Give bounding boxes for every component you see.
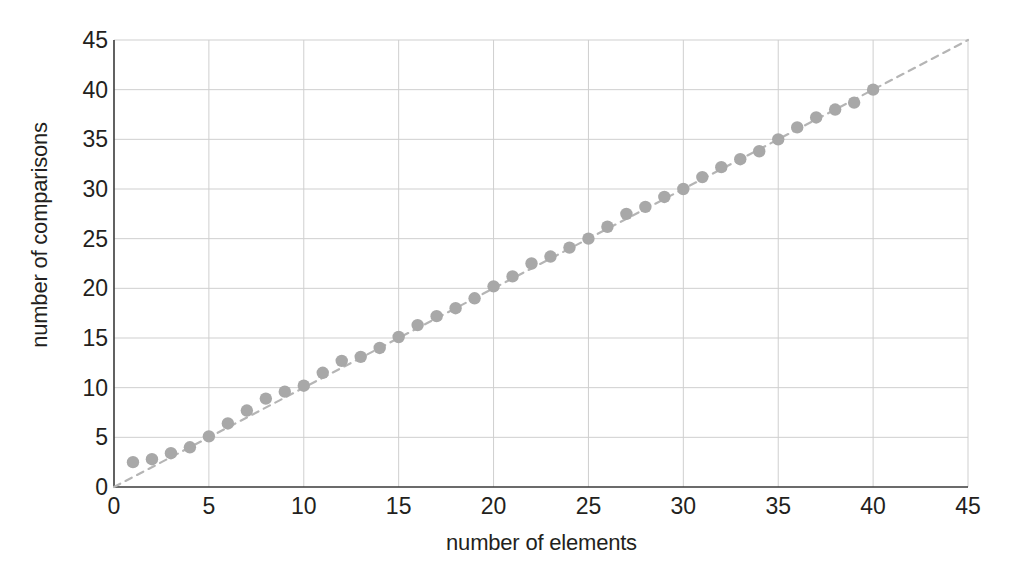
data-point (146, 453, 158, 465)
data-point (810, 111, 822, 123)
data-point (696, 171, 708, 183)
data-point (411, 319, 423, 331)
data-point (355, 351, 367, 363)
data-point (203, 430, 215, 442)
data-point (734, 153, 746, 165)
x-axis-title: number of elements (114, 530, 969, 556)
data-point (639, 201, 651, 213)
data-point (127, 456, 139, 468)
data-point (165, 447, 177, 459)
scatter-chart: number of comparisons 051015202530354045… (0, 0, 1011, 576)
data-point (791, 121, 803, 133)
data-point (772, 133, 784, 145)
data-point (336, 355, 348, 367)
data-point (392, 331, 404, 343)
data-point (279, 385, 291, 397)
data-point (544, 250, 556, 262)
data-point (430, 310, 442, 322)
data-point (601, 221, 613, 233)
data-point (241, 404, 253, 416)
data-point (487, 280, 499, 292)
data-point (317, 367, 329, 379)
data-point (582, 232, 594, 244)
data-point (867, 83, 879, 95)
data-point (260, 392, 272, 404)
data-point (753, 145, 765, 157)
data-point (658, 191, 670, 203)
data-point (373, 342, 385, 354)
data-point-group (127, 83, 880, 468)
data-point (848, 96, 860, 108)
data-point (829, 103, 841, 115)
data-point (525, 257, 537, 269)
data-point (298, 379, 310, 391)
data-point (677, 183, 689, 195)
data-point (468, 292, 480, 304)
data-point (506, 270, 518, 282)
plot-canvas (0, 0, 1011, 576)
data-point (222, 417, 234, 429)
data-point (449, 302, 461, 314)
data-point (563, 241, 575, 253)
data-point (184, 441, 196, 453)
data-point (715, 161, 727, 173)
data-point (620, 208, 632, 220)
